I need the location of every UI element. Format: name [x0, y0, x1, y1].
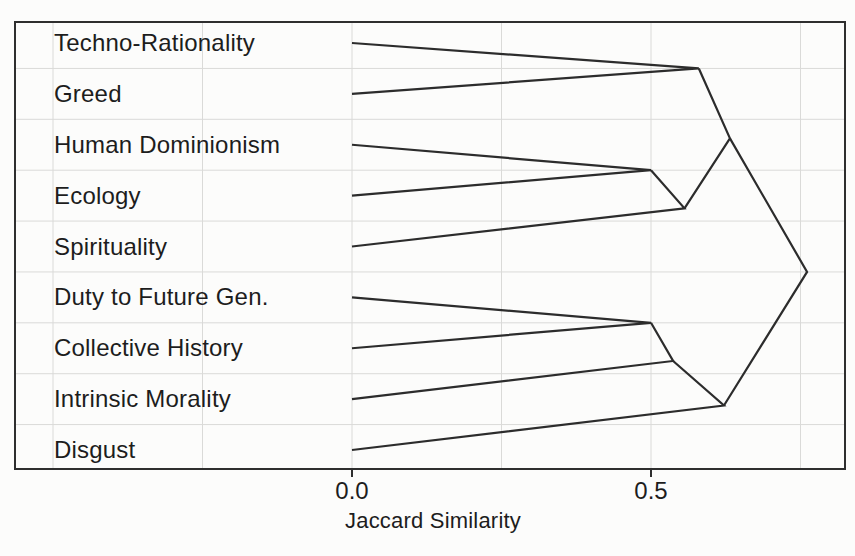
x-tick-label-0.5: 0.5 [634, 478, 667, 504]
leaf-label-human-dominionism: Human Dominionism [54, 131, 280, 159]
leaf-label-spirituality: Spirituality [54, 233, 167, 261]
dendrogram-link-n4 [684, 68, 729, 208]
leaf-label-intrinsic-morality: Intrinsic Morality [54, 385, 231, 413]
leaf-label-duty-to-future-gen: Duty to Future Gen. [54, 283, 269, 311]
dendrogram-plot-svg [0, 0, 855, 556]
dendrogram-link-n7 [352, 361, 724, 450]
leaf-label-disgust: Disgust [54, 436, 135, 464]
x-tick-label-0.0: 0.0 [335, 478, 368, 504]
leaf-label-ecology: Ecology [54, 182, 141, 210]
dendrogram-figure: Techno-Rationality Greed Human Dominioni… [0, 0, 855, 556]
x-axis-title: Jaccard Similarity [345, 509, 521, 533]
leaf-label-collective-history: Collective History [54, 334, 243, 362]
leaf-label-techno-rationality: Techno-Rationality [54, 29, 255, 57]
leaf-label-greed: Greed [54, 80, 122, 108]
